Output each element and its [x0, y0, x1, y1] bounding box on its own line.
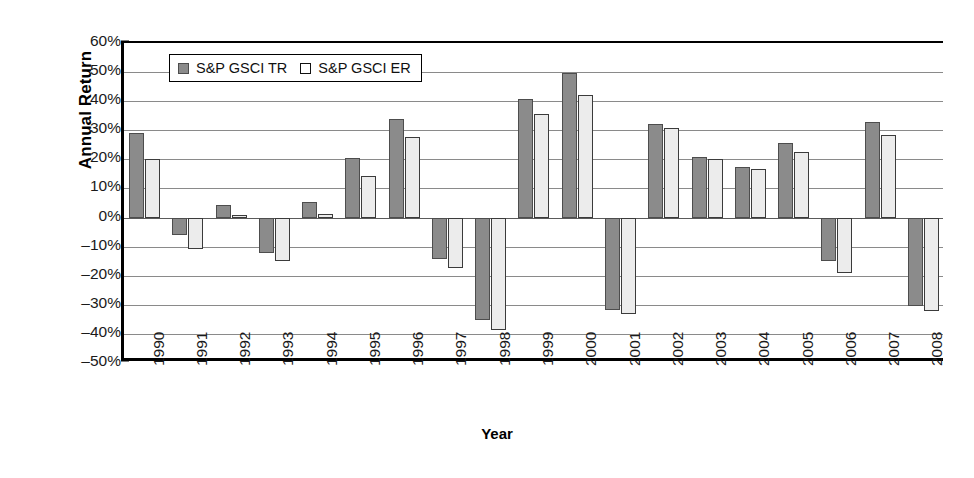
- x-tick-label: 1998: [496, 332, 514, 366]
- bar-tr-2003: [692, 157, 707, 217]
- bar-er-2006: [837, 218, 852, 273]
- x-tick-label: 1999: [539, 332, 557, 366]
- bar-er-1993: [275, 218, 290, 262]
- bar-er-2000: [578, 95, 593, 217]
- bar-tr-1994: [302, 202, 317, 217]
- bar-tr-1990: [129, 133, 144, 218]
- y-tick-label: 10%: [57, 177, 121, 195]
- bar-tr-2004: [735, 167, 750, 217]
- bar-tr-2007: [865, 122, 880, 217]
- bar-er-2007: [881, 135, 896, 218]
- bar-group: [903, 43, 946, 358]
- y-tick-label: –50%: [57, 352, 121, 370]
- y-tick-label: 20%: [57, 148, 121, 166]
- bar-er-1998: [491, 218, 506, 331]
- bar-group: [470, 43, 513, 358]
- x-tick-label: 2001: [626, 332, 644, 366]
- bar-tr-2006: [821, 218, 836, 262]
- bar-tr-1993: [259, 218, 274, 254]
- y-tick-label: –20%: [57, 265, 121, 283]
- bar-er-1992: [232, 215, 247, 217]
- bar-er-2008: [924, 218, 939, 311]
- bar-group: [513, 43, 556, 358]
- y-tick-label: –10%: [57, 236, 121, 254]
- x-axis-tick-labels: 1990199119921993199419951996199719981999…: [121, 364, 943, 424]
- x-tick-label: 2006: [842, 332, 860, 366]
- bar-tr-2002: [648, 124, 663, 217]
- bar-tr-1998: [475, 218, 490, 321]
- bar-group: [773, 43, 816, 358]
- bar-er-1999: [534, 114, 549, 218]
- bar-group: [686, 43, 729, 358]
- x-tick-label: 2007: [885, 332, 903, 366]
- x-tick-label: 1993: [279, 332, 297, 366]
- bar-group: [254, 43, 297, 358]
- bar-er-1996: [405, 137, 420, 218]
- legend-item-tr: S&P GSCI TR: [178, 60, 287, 76]
- y-tick-label: 60%: [57, 32, 121, 50]
- bar-tr-1997: [432, 218, 447, 259]
- bar-tr-1996: [389, 119, 404, 218]
- bar-group: [297, 43, 340, 358]
- x-axis-title-text: Year: [481, 425, 513, 442]
- bar-group: [816, 43, 859, 358]
- legend-item-er: S&P GSCI ER: [300, 60, 410, 76]
- legend-label: S&P GSCI TR: [196, 60, 287, 76]
- x-tick-label: 1995: [366, 332, 384, 366]
- bar-group: [384, 43, 427, 358]
- bar-tr-1995: [345, 158, 360, 217]
- bar-tr-2001: [605, 218, 620, 311]
- legend-swatch-outline-icon: [300, 63, 311, 74]
- bar-er-2001: [621, 218, 636, 315]
- bar-er-1990: [145, 159, 160, 218]
- bar-tr-1999: [518, 99, 533, 218]
- bar-er-1994: [318, 214, 333, 217]
- bar-group: [730, 43, 773, 358]
- bar-tr-2005: [778, 143, 793, 217]
- x-tick-label: 2008: [928, 332, 946, 366]
- chart-legend: S&P GSCI TRS&P GSCI ER: [169, 54, 422, 82]
- bar-chart: Annual Return 60%50%40%30%20%10%0%–10%–2…: [0, 0, 974, 478]
- y-axis-ticks: 60%50%40%30%20%10%0%–10%–20%–30%–40%–50%: [45, 41, 121, 361]
- bar-er-2005: [794, 152, 809, 218]
- x-tick-label: 2000: [582, 332, 600, 366]
- x-tick-label: 1992: [236, 332, 254, 366]
- x-tick-label: 2004: [755, 332, 773, 366]
- bar-group: [427, 43, 470, 358]
- plot-area: [121, 41, 943, 361]
- bar-er-2003: [708, 159, 723, 218]
- bar-group: [600, 43, 643, 358]
- bar-er-1991: [188, 218, 203, 250]
- x-tick-label: 2002: [669, 332, 687, 366]
- y-tick-label: –40%: [57, 323, 121, 341]
- x-tick-label: 1997: [452, 332, 470, 366]
- bar-group: [124, 43, 167, 358]
- bar-group: [167, 43, 210, 358]
- y-tick-label: 0%: [57, 207, 121, 225]
- bar-tr-1991: [172, 218, 187, 236]
- x-tick-label: 1994: [323, 332, 341, 366]
- x-tick-label: 1996: [409, 332, 427, 366]
- x-tick-label: 1990: [150, 332, 168, 366]
- y-tick-label: 30%: [57, 119, 121, 137]
- bar-er-1997: [448, 218, 463, 269]
- x-tick-label: 2003: [712, 332, 730, 366]
- bar-group: [643, 43, 686, 358]
- x-tick-label: 2005: [799, 332, 817, 366]
- bar-group: [557, 43, 600, 358]
- bar-er-2004: [751, 169, 766, 217]
- bar-group: [859, 43, 902, 358]
- bar-group: [340, 43, 383, 358]
- bar-tr-2008: [908, 218, 923, 306]
- x-axis-title: Year: [0, 425, 974, 442]
- legend-label: S&P GSCI ER: [318, 60, 410, 76]
- bar-group: [211, 43, 254, 358]
- y-tick-label: –30%: [57, 294, 121, 312]
- bar-er-2002: [664, 128, 679, 217]
- y-tick-label: 40%: [57, 90, 121, 108]
- legend-swatch-filled-icon: [178, 63, 189, 74]
- bar-tr-2000: [562, 73, 577, 218]
- bar-tr-1992: [216, 205, 231, 218]
- x-tick-label: 1991: [193, 332, 211, 366]
- bar-er-1995: [361, 176, 376, 218]
